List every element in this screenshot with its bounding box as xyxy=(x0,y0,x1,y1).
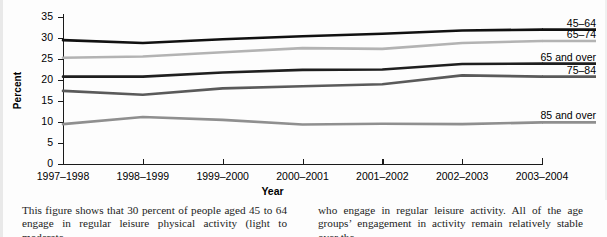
line-chart: Percent 05101520253035 1997–19981998–199… xyxy=(0,0,607,200)
series-label-65-74: 65–74 xyxy=(567,28,596,40)
series-line xyxy=(63,75,542,94)
series-label-85-and-over: 85 and over xyxy=(541,109,596,121)
figure-caption: This figure shows that 30 percent of peo… xyxy=(0,200,607,237)
x-tick-mark xyxy=(382,159,383,165)
x-tick-label: 2002–2003 xyxy=(422,170,502,182)
x-tick-label: 2000–2001 xyxy=(263,170,343,182)
series-label-65-and-over: 65 and over xyxy=(541,51,596,63)
x-tick-mark xyxy=(303,159,304,165)
x-tick-label: 1997–1998 xyxy=(23,170,103,182)
x-tick-label: 1998–1999 xyxy=(103,170,183,182)
x-tick-mark xyxy=(223,159,224,165)
x-tick-mark xyxy=(462,159,463,165)
x-tick-label: 1999–2000 xyxy=(183,170,263,182)
x-tick-label: 2003–2004 xyxy=(502,170,582,182)
series-line xyxy=(63,30,542,43)
series-line xyxy=(63,117,542,125)
x-axis-title: Year xyxy=(0,185,607,197)
x-tick-label: 2001–2002 xyxy=(342,170,422,182)
caption-column-right: who engage in regular leisure activity. … xyxy=(318,204,583,237)
series-label-45-64: 45–64 xyxy=(567,17,596,29)
figure-page: Percent 05101520253035 1997–19981998–199… xyxy=(0,0,607,237)
caption-column-left: This figure shows that 30 percent of peo… xyxy=(22,204,287,237)
x-tick-mark xyxy=(143,159,144,165)
series-label-75-84: 75–84 xyxy=(567,64,596,76)
x-tick-mark xyxy=(542,159,543,165)
x-tick-mark xyxy=(63,159,64,165)
